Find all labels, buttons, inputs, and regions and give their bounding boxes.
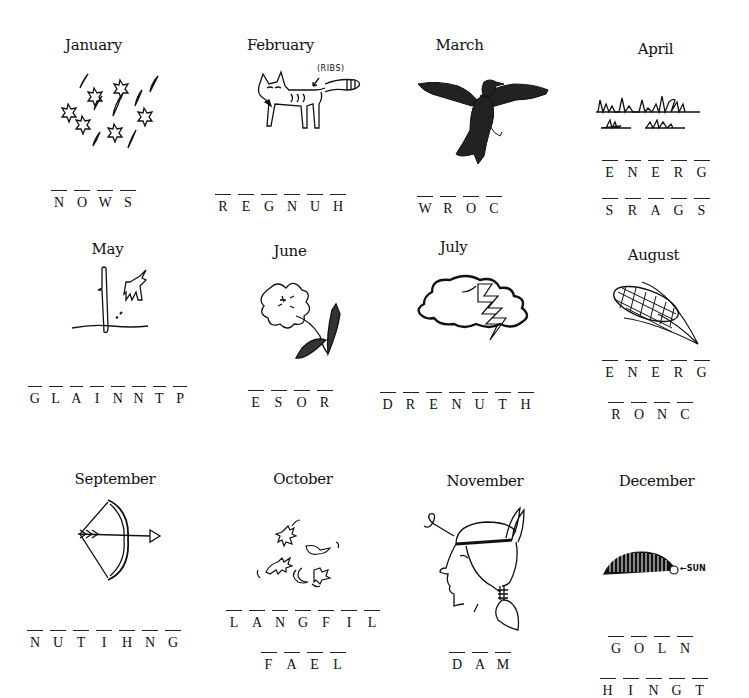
letter-slot: N [625, 160, 641, 180]
sun-annotation: ←SUN [680, 564, 706, 573]
letter-slot: I [90, 386, 104, 406]
scrambled-word: R O N C [552, 402, 749, 422]
letter-slot: O [294, 390, 310, 410]
letter-slot: R [625, 198, 641, 218]
scrambled-word: R E G N U H [187, 194, 374, 214]
letter-slot: O [631, 636, 647, 656]
letter-slot: N [677, 636, 693, 656]
letter-slot: N [27, 630, 43, 650]
scrambled-word: L A N G F I L [206, 610, 400, 630]
hand-planting-icon [72, 266, 152, 338]
letter-slot: R [317, 390, 333, 410]
month-cell-december: December ←SUN G O L N H I N G T [574, 460, 749, 698]
letter-slot: H [330, 194, 346, 214]
letter-slot: S [694, 198, 710, 218]
month-title: February [187, 36, 374, 54]
letter-slot: A [284, 652, 300, 672]
letter-slot: A [472, 652, 488, 672]
letter-slot: L [654, 636, 670, 656]
letter-slot: S [602, 198, 618, 218]
letter-slot: E [602, 360, 618, 380]
letter-slot: M [495, 652, 511, 672]
month-title: January [0, 36, 187, 54]
letter-slot: H [600, 678, 616, 698]
month-title: July [346, 238, 561, 256]
letter-slot: U [472, 392, 488, 412]
letter-slot: L [330, 652, 346, 672]
letter-slot: R [671, 360, 687, 380]
letter-slot: G [694, 360, 710, 380]
letter-slot: E [307, 652, 323, 672]
letter-slot: U [50, 630, 66, 650]
letter-slot: R [440, 196, 456, 216]
scrambled-word: E N E R G [562, 160, 749, 180]
month-cell-august: August E N E R G R O N C [562, 230, 749, 460]
letter-slot: D [449, 652, 465, 672]
letter-slot: N [111, 386, 125, 406]
letter-slot: F [318, 610, 334, 630]
letter-slot: R [671, 160, 687, 180]
letter-slot: L [226, 610, 242, 630]
letter-slot: A [249, 610, 265, 630]
month-cell-may: May G L A I N N T P [0, 230, 187, 460]
letter-slot: N [272, 610, 288, 630]
month-title: October [206, 470, 400, 488]
letter-slot: G [28, 386, 42, 406]
scrambled-word: G L A I N N T P [28, 386, 187, 406]
month-cell-october: October L A N G F I L F A E L [220, 460, 400, 698]
letter-slot: N [284, 194, 300, 214]
letter-slot: H [518, 392, 534, 412]
snowflakes-and-snow-icon [60, 68, 170, 150]
scrambled-word: H I N G T [558, 678, 749, 698]
ribs-annotation: (RIBS) [317, 64, 345, 73]
scrambled-word: D R E N U T H [352, 392, 561, 412]
scrambled-word: N O W S [0, 190, 187, 210]
scrambled-word: F A E L [206, 652, 400, 672]
letter-slot: N [646, 678, 662, 698]
falling-leaves-icon [256, 520, 348, 598]
letter-slot: E [648, 360, 664, 380]
native-head-icon [420, 508, 532, 630]
letter-slot: C [677, 402, 693, 422]
letter-slot: G [261, 194, 277, 214]
letter-slot: N [654, 402, 670, 422]
letter-slot: L [49, 386, 63, 406]
letter-slot: N [449, 392, 465, 412]
letter-slot: O [631, 402, 647, 422]
scrambled-word: G O L N [552, 636, 749, 656]
letter-slot: E [648, 160, 664, 180]
letter-slot: E [248, 390, 264, 410]
month-cell-february: February (RIBS) R E G N U H [187, 0, 374, 230]
letter-slot: L [364, 610, 380, 630]
letter-slot: G [608, 636, 624, 656]
letter-slot: D [380, 392, 396, 412]
letter-slot: G [295, 610, 311, 630]
month-cell-april: April E N E R G S R A G S [562, 0, 749, 230]
low-sun-arc-icon [602, 550, 680, 576]
letter-slot: G [694, 160, 710, 180]
letter-slot: I [96, 630, 112, 650]
letter-slot: N [132, 386, 146, 406]
letter-slot: O [463, 196, 479, 216]
letter-slot: G [671, 198, 687, 218]
month-title: September [20, 470, 210, 488]
month-title: November [400, 472, 570, 490]
letter-slot: N [625, 360, 641, 380]
scrambled-word: E N E R G [562, 360, 749, 380]
corn-icon [612, 282, 700, 346]
letter-slot: F [261, 652, 277, 672]
scrambled-word: S R A G S [562, 198, 749, 218]
month-title: December [564, 472, 749, 490]
letter-slot: I [623, 678, 639, 698]
month-title: April [562, 40, 749, 58]
letter-slot: E [238, 194, 254, 214]
letter-slot: T [692, 678, 708, 698]
month-title: March [358, 36, 561, 54]
letter-slot: N [51, 190, 67, 210]
thin-fox-icon [255, 66, 365, 136]
scrambled-word: W R O C [358, 196, 561, 216]
flower-icon [256, 276, 346, 362]
month-cell-june: June E S O R [210, 230, 370, 460]
letter-slot: G [669, 678, 685, 698]
month-cell-march: March W R O C [374, 0, 561, 230]
